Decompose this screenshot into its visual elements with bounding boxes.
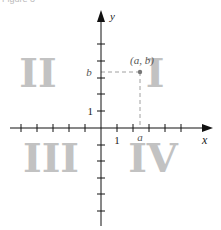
point-x-label: a: [137, 131, 143, 143]
x-tick-label-1: 1: [114, 134, 120, 146]
x-axis-label: x: [201, 133, 208, 147]
y-axis-label: y: [109, 10, 115, 22]
quadrant-IV-label: IV: [128, 134, 179, 181]
y-axis-arrow-icon: [97, 10, 105, 22]
y-tick-label-1: 1: [88, 105, 94, 117]
x-axis-arrow-icon: [202, 124, 213, 132]
quadrant-II-label: II: [19, 49, 56, 96]
quadrant-III-label: III: [23, 134, 79, 181]
y-axis: [97, 16, 105, 226]
point-coordinate-label: (a, b): [130, 54, 154, 67]
point-ab: [138, 70, 142, 74]
dashed-guides: [101, 72, 140, 128]
x-axis: [10, 124, 206, 132]
point-y-label: b: [86, 66, 92, 78]
coordinate-plane: II I III IV y x 1: [0, 0, 221, 230]
